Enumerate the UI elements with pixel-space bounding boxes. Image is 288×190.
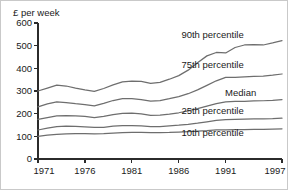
line-chart-canvas: £ per week 0100200300400500600 197119761…	[1, 1, 288, 190]
y-axis-tick-label: 300	[16, 85, 32, 96]
chart-figure: £ per week 0100200300400500600 197119761…	[0, 0, 288, 190]
series-inline-label: 10th percentile	[181, 127, 243, 138]
x-axis-tick-label: 1986	[168, 165, 189, 176]
series-inline-label: Median	[225, 87, 256, 98]
x-axis-tick-label: 1997	[264, 165, 285, 176]
series-inline-label: 90th percentile	[181, 29, 243, 40]
x-axis-tick-label: 1991	[215, 165, 236, 176]
y-axis-tick-label: 400	[16, 63, 32, 74]
y-axis-tick-label: 200	[16, 108, 32, 119]
y-axis-tick-label: 600	[16, 17, 32, 28]
y-axis-tick-group: 0100200300400500600	[16, 17, 38, 164]
series-line	[38, 100, 282, 120]
series-line	[38, 41, 282, 92]
series-line	[38, 118, 282, 130]
y-axis-tick-label: 0	[27, 153, 32, 164]
x-axis-tick-label: 1976	[74, 165, 95, 176]
series-inline-label: 75th percentile	[181, 59, 243, 70]
x-axis-tick-group: 197119761981198619911997	[33, 159, 285, 176]
y-axis-title: £ per week	[13, 7, 60, 18]
y-axis-tick-label: 100	[16, 131, 32, 142]
series-inline-label: 25th percentile	[181, 105, 243, 116]
x-axis-tick-label: 1971	[33, 165, 54, 176]
x-axis-tick-label: 1981	[121, 165, 142, 176]
y-axis-tick-label: 500	[16, 40, 32, 51]
series-line	[38, 129, 282, 136]
